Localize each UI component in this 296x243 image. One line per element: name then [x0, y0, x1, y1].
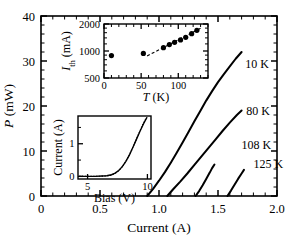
upper-y-tick-label-2: 2000: [79, 19, 100, 30]
main-y-tick-label-2: 20: [23, 100, 36, 114]
main-x-axis-title: Current (A): [127, 220, 190, 235]
main-x-tick-label-3: 1.5: [210, 202, 226, 216]
lower-inset-y-axis-title: Current (A): [51, 119, 65, 175]
upper-inset-point-0: [109, 53, 114, 58]
lower-inset-titles: Bias (V): [94, 191, 135, 205]
lower-inset-frame: [78, 116, 151, 179]
main-y-axis-title: P (mW): [1, 84, 16, 129]
lower-x-tick-label-1: 10: [142, 181, 153, 192]
upper-inset-point-3: [167, 42, 172, 47]
main-y-tick-label-4: 40: [23, 10, 36, 24]
lower-inset: 51001: [69, 116, 152, 192]
upper-x-tick-label-0: 0: [101, 80, 106, 91]
curve-label-2: 108 K: [242, 138, 272, 152]
power-curve-108-K: [196, 165, 215, 197]
upper-inset-point-5: [178, 37, 183, 42]
upper-inset-point-4: [172, 40, 177, 45]
figure-container: 00.51.01.52.0010203040Current (A)P (mW)1…: [0, 0, 296, 243]
main-axis-titles: Current (A): [127, 220, 190, 235]
lower-x-tick-label-0: 5: [85, 181, 90, 192]
upper-inset-point-7: [189, 31, 194, 36]
upper-inset-point-2: [161, 45, 166, 50]
curve-label-1: 80 K: [246, 104, 270, 118]
upper-inset-point-8: [194, 28, 199, 33]
curve-label-3: 125 K: [253, 157, 283, 171]
lower-inset-x-axis-title: Bias (V): [94, 191, 135, 205]
main-x-tick-label-4: 2.0: [269, 202, 285, 216]
main-y-tick-label-3: 30: [23, 55, 36, 69]
main-y-tick-label-1: 10: [23, 145, 36, 159]
upper-y-tick-label-0: 500: [84, 73, 100, 84]
main-x-tick-label-0: 0: [38, 202, 44, 216]
lower-y-tick-label-1: 1: [69, 138, 74, 149]
lower-y-tick-label-0: 0: [69, 171, 74, 182]
lipowercurrent-figure: 00.51.01.52.0010203040Current (A)P (mW)1…: [0, 0, 296, 243]
upper-inset-point-6: [183, 35, 188, 40]
upper-y-tick-label-1: 1000: [79, 46, 100, 57]
upper-inset-point-1: [141, 51, 146, 56]
curve-label-0: 10 K: [245, 57, 269, 71]
power-curve-125-K: [227, 170, 244, 196]
main-y-tick-label-0: 0: [29, 190, 35, 204]
upper-x-tick-label-2: 100: [170, 80, 186, 91]
upper-inset-x-axis-title: T (K): [143, 90, 169, 104]
upper-inset-y-axis-title: Ith (mA): [59, 31, 77, 72]
main-x-tick-label-2: 1.0: [151, 202, 167, 216]
